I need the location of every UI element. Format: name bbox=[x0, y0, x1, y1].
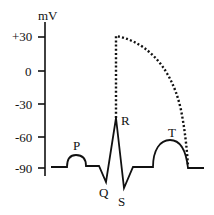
axis-unit-label: mV bbox=[38, 8, 58, 23]
ecg-action-potential-diagram: mV +30 0 -30 -60 -90 P Q R S T bbox=[0, 0, 214, 215]
tick-label: 0 bbox=[25, 64, 32, 79]
tick-label: -90 bbox=[15, 161, 32, 176]
wave-label-p: P bbox=[73, 138, 80, 153]
axis-ticks: +30 0 -30 -60 -90 bbox=[12, 29, 45, 176]
wave-label-t: T bbox=[168, 125, 176, 140]
action-potential-dotted-trace bbox=[116, 36, 188, 166]
wave-label-q: Q bbox=[99, 185, 109, 200]
wave-label-r: R bbox=[121, 113, 130, 128]
ecg-trace bbox=[51, 118, 204, 188]
tick-label: +30 bbox=[12, 29, 32, 44]
tick-label: -30 bbox=[15, 97, 32, 112]
wave-label-s: S bbox=[118, 194, 125, 209]
tick-label: -60 bbox=[15, 130, 32, 145]
